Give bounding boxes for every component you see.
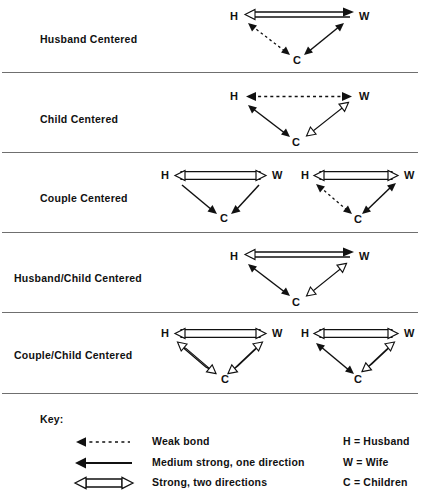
link-husband-child-medium — [248, 264, 290, 296]
diagram-couple-child-centered-b: H W C — [300, 325, 420, 387]
diagram-husband-child-centered: H W C — [228, 246, 388, 310]
abbreviation-wife: W = Wife — [343, 456, 389, 468]
node-label-children: C — [292, 136, 300, 148]
node-label-wife: W — [359, 90, 370, 102]
link-wife-child-medium — [304, 23, 344, 55]
row-divider — [2, 393, 418, 394]
link-husband-child-medium-one — [182, 185, 217, 214]
row-label-couple-centered: Couple Centered — [40, 192, 128, 204]
row-label-child-centered: Child Centered — [40, 113, 118, 125]
link-husband-wife-strong — [314, 170, 398, 180]
row-divider — [2, 312, 418, 313]
link-wife-child-strong — [307, 102, 349, 136]
link-husband-wife-strong — [245, 248, 354, 260]
link-husband-wife-weak — [246, 92, 352, 101]
link-husband-wife-strong — [314, 328, 398, 338]
key-title: Key: — [40, 413, 64, 425]
node-label-husband: H — [301, 327, 309, 339]
figure-sheet: Husband Centered H W — [0, 0, 428, 498]
node-label-children: C — [292, 296, 300, 308]
link-husband-child-medium — [248, 105, 290, 137]
key-legend-label: Strong, two directions — [152, 476, 267, 488]
link-wife-child-medium — [362, 183, 396, 214]
link-wife-child-strong — [228, 342, 263, 374]
node-label-children: C — [354, 213, 362, 225]
diagram-couple-child-centered-a: H W C — [160, 325, 290, 387]
link-husband-child-weak — [316, 184, 352, 214]
node-label-children: C — [221, 373, 229, 385]
node-label-children: C — [220, 212, 228, 224]
node-label-husband: H — [301, 169, 309, 181]
link-wife-child-strong — [362, 342, 395, 372]
node-label-husband: H — [230, 10, 238, 22]
row-label-husband-centered: Husband Centered — [40, 33, 137, 45]
row-divider — [2, 72, 418, 73]
node-label-husband: H — [161, 169, 169, 181]
row-label-husband-child-centered: Husband/Child Centered — [14, 272, 142, 284]
abbreviation-children: C = Children — [343, 476, 408, 488]
row-label-couple-child-centered: Couple/Child Centered — [14, 349, 132, 361]
node-label-husband: H — [230, 250, 238, 262]
node-label-children: C — [293, 54, 301, 66]
node-label-wife: W — [272, 169, 283, 181]
link-husband-wife-strong — [245, 8, 354, 20]
row-divider — [2, 152, 418, 153]
node-label-wife: W — [272, 327, 283, 339]
link-wife-child-medium-one — [231, 185, 259, 214]
link-husband-child-medium — [316, 343, 354, 374]
node-label-wife: W — [359, 10, 370, 22]
abbreviation-husband: H = Husband — [343, 435, 410, 447]
link-husband-child-strong — [178, 342, 217, 374]
node-label-wife: W — [404, 169, 415, 181]
node-label-children: C — [354, 373, 362, 385]
diagram-child-centered: H W C — [228, 88, 388, 150]
diagram-couple-centered-a: H W C — [160, 167, 290, 227]
key-legend-label: Medium strong, one direction — [152, 456, 305, 468]
diagram-husband-centered: H W C — [228, 6, 388, 68]
link-husband-wife-strong — [175, 328, 266, 338]
diagram-couple-centered-b: H W C — [300, 167, 420, 227]
node-label-wife: W — [359, 250, 370, 262]
node-label-husband: H — [161, 327, 169, 339]
node-label-wife: W — [404, 327, 415, 339]
node-label-husband: H — [230, 90, 238, 102]
medium-strong-arrow-icon — [72, 454, 146, 472]
link-husband-child-weak — [248, 23, 290, 55]
row-divider — [2, 232, 418, 233]
key-legend-label: Weak bond — [152, 435, 210, 447]
link-husband-wife-strong — [175, 170, 266, 180]
strong-double-arrow-icon — [72, 474, 146, 492]
link-wife-child-strong — [307, 263, 347, 296]
weak-bond-arrow-icon — [72, 433, 146, 451]
